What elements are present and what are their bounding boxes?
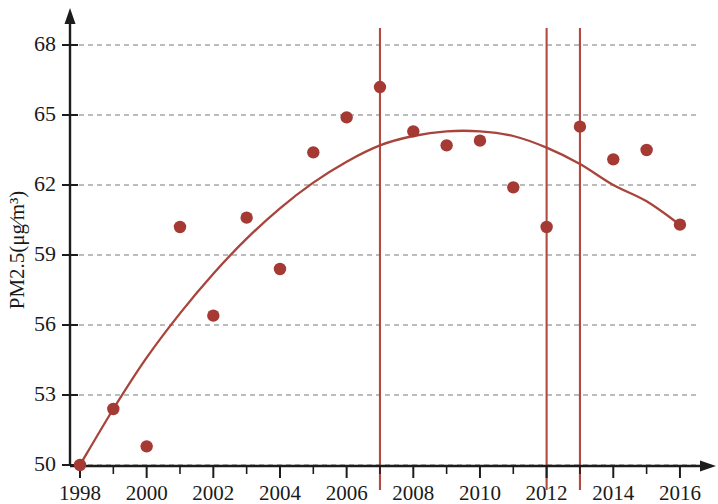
- data-point-2003: [240, 211, 252, 223]
- x-tick-label-2000: 2000: [126, 481, 168, 504]
- chart-canvas: 50535659626568 1998200020022004200620082…: [0, 0, 718, 504]
- data-point-2013: [574, 120, 586, 132]
- x-tick-label-2006: 2006: [326, 481, 368, 504]
- y-axis-title: PM2.5(μg∕m³): [5, 191, 29, 309]
- data-point-2016: [674, 218, 686, 230]
- y-tick-label-59: 59: [34, 241, 56, 266]
- data-point-2015: [640, 144, 652, 156]
- x-tick-label-2012: 2012: [526, 481, 568, 504]
- data-point-2002: [207, 309, 219, 321]
- y-tick-label-53: 53: [34, 381, 56, 406]
- data-point-2008: [407, 125, 419, 137]
- data-point-2006: [340, 111, 352, 123]
- data-point-2001: [174, 221, 186, 233]
- data-point-2011: [507, 181, 519, 193]
- x-tick-label-2004: 2004: [259, 481, 302, 504]
- y-tick-label-65: 65: [34, 101, 56, 126]
- data-point-1998: [74, 459, 86, 471]
- data-point-2007: [374, 81, 386, 93]
- x-tick-label-2014: 2014: [592, 481, 635, 504]
- y-tick-label-56: 56: [34, 311, 56, 336]
- y-tick-label-62: 62: [34, 171, 56, 196]
- y-tick-label-50: 50: [34, 451, 56, 476]
- x-tick-label-2010: 2010: [459, 481, 501, 504]
- data-point-2004: [274, 263, 286, 275]
- data-point-2005: [307, 146, 319, 158]
- data-point-2000: [140, 440, 152, 452]
- x-tick-label-2008: 2008: [392, 481, 434, 504]
- y-tick-label-68: 68: [34, 31, 56, 56]
- pm25-scatter-chart: 50535659626568 1998200020022004200620082…: [0, 0, 718, 504]
- chart-background: [0, 0, 718, 504]
- data-point-2009: [440, 139, 452, 151]
- x-tick-label-2002: 2002: [192, 481, 234, 504]
- data-point-2010: [474, 134, 486, 146]
- data-point-1999: [107, 403, 119, 415]
- x-tick-label-1998: 1998: [59, 481, 101, 504]
- x-tick-label-2016: 2016: [659, 481, 701, 504]
- data-point-2012: [540, 221, 552, 233]
- data-point-2014: [607, 153, 619, 165]
